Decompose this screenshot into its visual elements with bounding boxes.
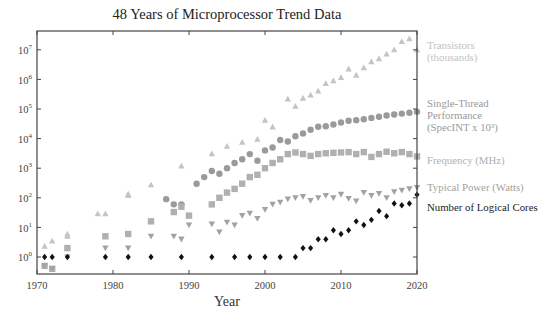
data-point (239, 156, 245, 162)
data-point (285, 96, 291, 102)
data-point (338, 119, 344, 125)
data-point (148, 182, 154, 188)
data-point (368, 154, 374, 160)
data-point (292, 103, 298, 109)
data-point (178, 237, 184, 243)
data-point (292, 195, 298, 201)
data-point (209, 201, 215, 207)
x-tick-label: 1980 (93, 280, 133, 291)
data-point (125, 246, 131, 252)
data-point (391, 189, 397, 195)
data-point (102, 211, 108, 217)
data-point (41, 243, 47, 249)
data-point (315, 88, 321, 94)
data-point (345, 66, 351, 72)
data-point (376, 56, 382, 62)
legend-power: Typical Power (Watts) (427, 181, 524, 193)
data-point (178, 204, 184, 210)
data-point (361, 64, 367, 70)
data-point (323, 150, 329, 156)
legend-frequency: Frequency (MHz) (427, 154, 505, 166)
data-point (345, 196, 351, 202)
data-point (148, 254, 153, 260)
data-point (338, 149, 344, 155)
data-point (316, 236, 321, 242)
data-point (269, 124, 275, 130)
legend-label: Performance (427, 109, 498, 121)
data-point (224, 165, 230, 171)
data-point (368, 115, 374, 121)
y-tick-label: 106 (2, 73, 32, 86)
data-point (406, 186, 412, 192)
data-point (315, 124, 321, 130)
data-point (269, 144, 275, 150)
data-point (186, 212, 192, 218)
y-tick-label: 104 (2, 132, 32, 145)
data-point (277, 156, 283, 162)
legend-label: Single-Thread (427, 97, 498, 109)
data-point (406, 36, 412, 42)
data-point (406, 151, 412, 157)
data-point (231, 186, 237, 192)
data-point (262, 117, 268, 123)
data-point (262, 147, 268, 153)
data-point (64, 245, 70, 251)
legend-label: (thousands) (427, 51, 477, 63)
data-point (50, 254, 55, 260)
data-point (308, 245, 313, 251)
data-point (292, 133, 298, 139)
data-point (307, 198, 313, 204)
data-point (368, 193, 374, 199)
data-point (193, 180, 199, 186)
data-point (269, 202, 275, 208)
x-tick-label: 1970 (17, 280, 57, 291)
data-point (209, 221, 215, 227)
data-point (269, 160, 275, 166)
data-point (315, 151, 321, 157)
data-point (201, 174, 207, 180)
data-point (376, 151, 382, 157)
legend-transistors: Transistors (thousands) (427, 39, 477, 63)
data-point (323, 80, 329, 86)
data-point (209, 150, 215, 156)
data-point (346, 227, 351, 233)
data-point (171, 234, 177, 240)
data-point (285, 138, 291, 144)
data-point (300, 151, 306, 157)
x-tick-label: 2000 (245, 280, 285, 291)
data-point (239, 213, 245, 219)
data-point (354, 218, 359, 224)
data-point (278, 254, 283, 260)
data-point (163, 196, 169, 202)
data-point (42, 254, 47, 260)
y-tick-label: 103 (2, 161, 32, 174)
data-point (399, 149, 405, 155)
data-point (300, 194, 306, 200)
data-point (361, 116, 367, 122)
data-point (231, 222, 237, 228)
data-point (300, 245, 305, 251)
data-point (254, 157, 260, 163)
data-point (330, 150, 336, 156)
y-tick-label: 107 (2, 43, 32, 56)
data-point (383, 51, 389, 57)
x-tick-label: 1990 (169, 280, 209, 291)
data-point (307, 92, 313, 98)
data-point (254, 172, 260, 178)
data-point (331, 227, 336, 233)
data-point (391, 47, 397, 53)
y-tick-label: 105 (2, 102, 32, 115)
data-point (254, 216, 260, 222)
data-point (247, 211, 253, 217)
data-point (224, 143, 230, 149)
data-point (330, 78, 336, 84)
data-point (399, 188, 405, 194)
data-point (391, 150, 397, 156)
data-point (103, 254, 108, 260)
data-point (102, 233, 108, 239)
data-point (323, 123, 329, 129)
data-point (178, 163, 184, 169)
plot-frame (37, 31, 417, 274)
data-point (300, 95, 306, 101)
data-point (307, 126, 313, 132)
